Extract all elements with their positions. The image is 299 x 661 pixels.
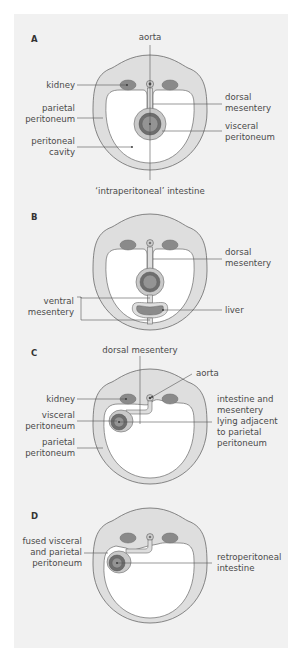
label-dorsal-1: dorsal — [225, 247, 251, 257]
panel-letter-c: C — [31, 348, 37, 358]
label-adjacent-5: peritoneum — [217, 438, 267, 448]
label-ventral-2: mesentery — [28, 307, 74, 317]
label-visceral-2: peritoneum — [225, 132, 275, 142]
peritoneum-development-diagram: .wall { fill: #dedede; stroke: #6a6a6a; … — [0, 0, 299, 661]
label-adjacent-2: mesentery — [217, 405, 263, 415]
panel-a: A aorta kidney parietal peritoneum perit… — [25, 32, 275, 196]
label-aorta: aorta — [196, 368, 219, 378]
panel-letter-d: D — [31, 511, 38, 521]
panel-c: C dorsal mesentery aorta kidney visceral… — [25, 345, 278, 484]
label-visceral-1: visceral — [42, 410, 75, 420]
panel-letter-b: B — [31, 212, 37, 222]
label-cavity-1: peritoneal — [31, 136, 75, 146]
label-retro-2: intestine — [217, 563, 254, 573]
panel-d: D fused visceral and parietal peritoneum… — [22, 508, 281, 623]
kidney-right — [162, 533, 178, 543]
label-fused-2: and parietal — [30, 547, 82, 557]
panel-letter-a: A — [31, 34, 38, 44]
label-adjacent-1: intestine and — [217, 394, 273, 404]
label-cavity-2: cavity — [49, 147, 75, 157]
label-parietal-1: parietal — [42, 437, 75, 447]
label-fused-1: fused visceral — [22, 536, 82, 546]
label-adjacent-3: lying adjacent — [217, 416, 278, 426]
liver — [137, 306, 164, 315]
label-liver: liver — [225, 305, 244, 315]
label-parietal-1: parietal — [42, 103, 75, 113]
label-aorta: aorta — [139, 32, 162, 42]
kidney-right — [162, 394, 178, 404]
kidney-right — [162, 240, 178, 250]
label-parietal-2: peritoneum — [25, 448, 75, 458]
label-dorsal-1: dorsal — [225, 92, 251, 102]
label-kidney: kidney — [46, 80, 75, 90]
label-visceral-2: peritoneum — [25, 421, 75, 431]
kidney-left — [120, 240, 136, 250]
label-dorsal-2: mesentery — [225, 103, 271, 113]
label-parietal-2: peritoneum — [25, 114, 75, 124]
kidney-left — [120, 533, 136, 543]
label-dorsal-mesentery: dorsal mesentery — [102, 345, 177, 355]
label-kidney: kidney — [46, 394, 75, 404]
label-intraperitoneal-intestine: ‘intraperitoneal’ intestine — [95, 186, 204, 196]
label-dorsal-2: mesentery — [225, 258, 271, 268]
label-adjacent-4: to parietal — [217, 427, 261, 437]
label-retro-1: retroperitoneal — [217, 552, 281, 562]
panel-b: B dorsal mesentery ventral mesentery liv… — [28, 212, 271, 330]
ventral-mesentery — [148, 295, 153, 303]
label-ventral-1: ventral — [44, 296, 74, 306]
label-visceral-1: visceral — [225, 121, 258, 131]
label-fused-3: peritoneum — [32, 558, 82, 568]
kidney-right — [162, 80, 178, 90]
